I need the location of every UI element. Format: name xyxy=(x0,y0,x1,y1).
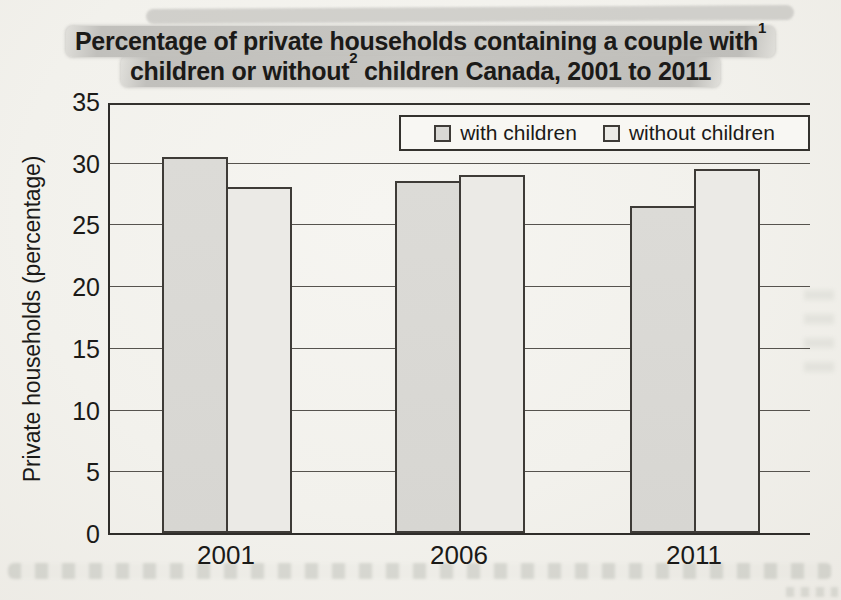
plot-area: with children without children xyxy=(108,103,810,535)
bar-with-children-2011 xyxy=(630,206,696,533)
x-tick-label-2011: 2011 xyxy=(624,540,764,570)
y-tick-label-20: 20 xyxy=(4,273,100,301)
bar-without-children-2006 xyxy=(459,175,525,533)
legend-item-with-children: with children xyxy=(434,121,577,145)
legend-item-without-children: without children xyxy=(603,121,775,145)
bar-with-children-2006 xyxy=(395,181,461,533)
bar-with-children-2001 xyxy=(162,157,228,533)
chart-title-line2: children or without2 children Canada, 20… xyxy=(0,56,841,86)
y-tick-label-15: 15 xyxy=(4,335,100,363)
legend-label-without-children: without children xyxy=(629,121,775,145)
legend: with children without children xyxy=(399,115,810,151)
y-tick-label-30: 30 xyxy=(4,150,100,178)
footnote-marker-2: 2 xyxy=(349,49,357,66)
scan-artifact-bleedthrough-corner xyxy=(786,587,838,597)
chart-title-line1: Percentage of private households contain… xyxy=(0,26,841,56)
legend-label-with-children: with children xyxy=(460,121,577,145)
legend-swatch-without-children xyxy=(603,125,620,142)
scanned-book-page: Percentage of private households contain… xyxy=(0,0,841,600)
x-tick-label-2001: 2001 xyxy=(156,540,296,570)
legend-swatch-with-children xyxy=(434,125,451,142)
chart-title: Percentage of private households contain… xyxy=(0,26,841,86)
x-tick-label-2006: 2006 xyxy=(389,540,529,570)
y-tick-label-10: 10 xyxy=(4,397,100,425)
bar-without-children-2011 xyxy=(694,169,760,533)
scan-artifact-highlighter-stroke xyxy=(146,5,794,24)
bar-without-children-2001 xyxy=(226,187,292,533)
y-tick-label-0: 0 xyxy=(4,520,100,548)
y-tick-label-5: 5 xyxy=(4,458,100,486)
y-tick-label-25: 25 xyxy=(4,211,100,239)
footnote-marker-1: 1 xyxy=(758,19,766,36)
y-tick-label-35: 35 xyxy=(4,88,100,116)
